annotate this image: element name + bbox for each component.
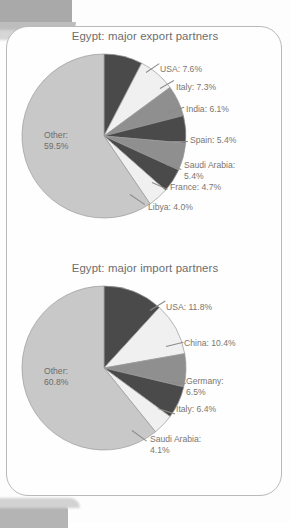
import-label-usa: USA: 11.8% (166, 302, 212, 313)
export-label-saudi-line2: 5.4% (184, 171, 204, 181)
leader-line-spain (170, 141, 188, 142)
import-label-germany: Germany: 6.5% (186, 376, 224, 397)
import-pie-area: USA: 11.8% China: 10.4% Germany: 6.5% It… (0, 274, 290, 474)
export-label-saudi-line1: Saudi Arabia: (184, 160, 235, 170)
export-chart-title: Egypt: major export partners (0, 30, 290, 42)
export-label-other-line1: Other: (44, 130, 68, 140)
import-chart-title: Egypt: major import partners (0, 262, 290, 274)
export-label-india: India: 6.1% (186, 104, 229, 115)
export-label-saudi-arabia: Saudi Arabia: 5.4% (184, 160, 235, 181)
import-label-saudi-arabia: Saudi Arabia: 4.1% (150, 434, 201, 455)
export-label-spain: Spain: 5.4% (190, 135, 236, 146)
import-label-saudi-line1: Saudi Arabia: (150, 434, 201, 444)
export-label-libya: Libya: 4.0% (148, 202, 193, 213)
export-label-other-line2: 59.5% (44, 141, 68, 151)
import-label-china: China: 10.4% (184, 338, 236, 349)
import-label-germany-line2: 6.5% (186, 387, 206, 397)
import-label-saudi-line2: 4.1% (150, 445, 170, 455)
import-label-germany-line1: Germany: (186, 376, 224, 386)
export-chart-block: Egypt: major export partners USA: 7.6% I… (0, 30, 290, 270)
import-label-italy: Italy: 6.4% (176, 404, 216, 415)
import-label-other-line1: Other: (44, 366, 68, 376)
import-chart-block: Egypt: major import partners USA: 11.8% … (0, 262, 290, 502)
export-label-other: Other: 59.5% (44, 130, 68, 151)
import-label-other-line2: 60.8% (44, 377, 68, 387)
export-label-italy: Italy: 7.3% (176, 82, 216, 93)
export-label-usa: USA: 7.6% (160, 64, 202, 75)
export-label-france: France: 4.7% (170, 182, 221, 193)
import-label-other: Other: 60.8% (44, 366, 68, 387)
export-pie-area: USA: 7.6% Italy: 7.3% India: 6.1% Spain:… (0, 42, 290, 242)
